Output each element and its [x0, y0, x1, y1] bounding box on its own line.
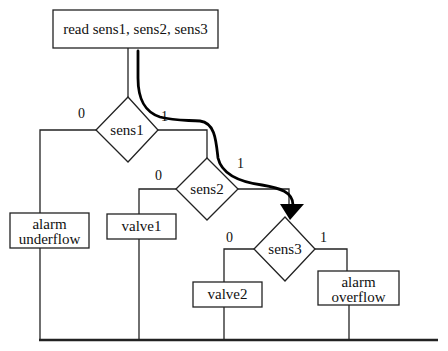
sens1-false-label: 0: [78, 106, 85, 121]
action-alarm-underflow: alarm underflow: [10, 213, 89, 248]
decision-sens2: sens2: [176, 158, 238, 220]
action-valve1: valve1: [107, 214, 176, 239]
sens3-label: sens3: [268, 241, 301, 257]
action-alarm-overflow: alarm overflow: [318, 271, 399, 305]
connector-sens1-false: [40, 130, 96, 213]
read-sensors-label: read sens1, sens2, sens3: [63, 21, 208, 37]
sens1-label: sens1: [110, 122, 143, 138]
alarm-overflow-line1: alarm: [341, 274, 375, 290]
sens2-true-label: 1: [237, 156, 244, 171]
connector-sens1-true: [158, 130, 207, 158]
decision-sens3: sens3: [254, 217, 315, 281]
sens2-label: sens2: [190, 181, 223, 197]
sens3-false-label: 0: [226, 230, 233, 245]
alarm-underflow-line2: underflow: [19, 231, 81, 247]
alarm-overflow-line2: overflow: [331, 289, 385, 305]
connector-sens3-true: [315, 249, 347, 271]
decision-sens1: sens1: [96, 97, 158, 162]
flowchart-canvas: read sens1, sens2, sens3 sens1 0 1 alarm…: [0, 0, 448, 351]
read-sensors-box: read sens1, sens2, sens3: [53, 10, 218, 48]
action-valve2: valve2: [193, 282, 262, 307]
valve1-label: valve1: [122, 218, 162, 234]
valve2-label: valve2: [208, 286, 248, 302]
sens3-true-label: 1: [320, 230, 327, 245]
connector-sens2-false: [139, 189, 176, 214]
alarm-underflow-line1: alarm: [32, 216, 66, 232]
connector-sens2-true: [238, 189, 289, 217]
connector-sens3-false: [224, 249, 254, 282]
sens2-false-label: 0: [155, 168, 162, 183]
